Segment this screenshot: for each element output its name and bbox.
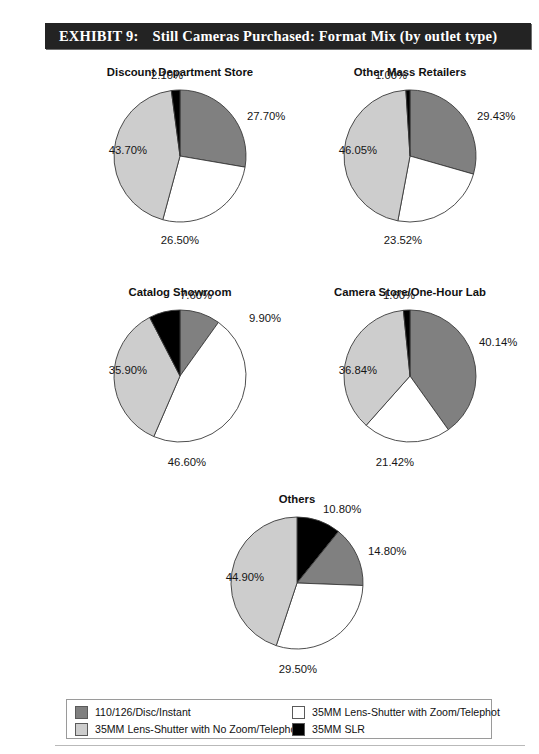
pie-value-label: 1.00% (361, 69, 421, 81)
legend-label: 35MM SLR (312, 724, 365, 735)
legend-item: 110/126/Disc/Instant (75, 705, 299, 719)
pie-value-label: 10.80% (323, 503, 361, 515)
legend-label: 35MM Lens-Shutter with Zoom/Telephot (312, 707, 500, 718)
exhibit-banner-text: EXHIBIT 9: Still Cameras Purchased: Form… (45, 23, 531, 49)
pie-value-label: 1.60% (369, 289, 429, 301)
pie-chart-2: Other Mass Retailers29.43%23.52%46.05%1.… (325, 66, 539, 252)
legend-box: 110/126/Disc/Instant35MM Lens-Shutter wi… (66, 699, 492, 739)
pie-value-label: 27.70% (247, 110, 285, 122)
pie-chart-1: Discount Department Store27.70%26.50%43.… (95, 66, 326, 252)
legend-label: 110/126/Disc/Instant (95, 707, 191, 718)
pie-graphic (95, 286, 326, 472)
pie-value-label: 26.50% (150, 234, 210, 246)
legend-swatch-icon (292, 706, 305, 719)
pie-graphic (212, 493, 443, 679)
pie-value-label: 2.10% (137, 69, 197, 81)
footer-rule (55, 745, 525, 746)
exhibit-title: Still Cameras Purchased: Format Mix (by … (139, 28, 498, 45)
pie-value-label: 21.42% (365, 456, 425, 468)
pie-chart-5: Others10.80%14.80%29.50%44.90% (212, 493, 443, 679)
pie-value-label: 29.43% (477, 110, 515, 122)
pie-value-label: 46.05% (325, 144, 377, 156)
pie-value-label: 36.84% (325, 364, 377, 376)
exhibit-page: EXHIBIT 9: Still Cameras Purchased: Form… (0, 0, 539, 754)
legend-item: 35MM Lens-Shutter with Zoom/Telephot (292, 705, 500, 719)
legend-column-left: 110/126/Disc/Instant35MM Lens-Shutter wi… (75, 705, 299, 739)
legend-column-right: 35MM Lens-Shutter with Zoom/Telephot35MM… (292, 705, 500, 739)
pie-value-label: 46.60% (157, 456, 217, 468)
pie-value-label: 14.80% (368, 545, 406, 557)
legend-item: 35MM Lens-Shutter with No Zoom/Telephot (75, 722, 299, 736)
legend-swatch-icon (75, 706, 88, 719)
exhibit-banner: EXHIBIT 9: Still Cameras Purchased: Form… (45, 23, 531, 49)
pie-value-label: 23.52% (373, 234, 433, 246)
pie-value-label: 29.50% (268, 663, 328, 675)
pie-graphic (95, 66, 326, 252)
pie-slice (180, 90, 246, 167)
exhibit-number: EXHIBIT 9: (45, 28, 139, 45)
pie-chart-4: Camera Store/One-Hour Lab40.14%21.42%36.… (325, 286, 539, 472)
legend-swatch-icon (75, 723, 88, 736)
legend-item: 35MM SLR (292, 722, 500, 736)
pie-chart-3: Catalog Showroom9.90%46.60%35.90%7.60% (95, 286, 326, 472)
pie-graphic (325, 66, 539, 252)
pie-value-label: 43.70% (95, 144, 147, 156)
legend-swatch-icon (292, 723, 305, 736)
pie-value-label: 40.14% (479, 336, 517, 348)
pie-value-label: 44.90% (212, 571, 264, 583)
pie-value-label: 7.60% (166, 289, 226, 301)
pie-value-label: 9.90% (249, 312, 281, 324)
pie-value-label: 35.90% (95, 364, 147, 376)
pie-graphic (325, 286, 539, 472)
legend-label: 35MM Lens-Shutter with No Zoom/Telephot (95, 724, 299, 735)
